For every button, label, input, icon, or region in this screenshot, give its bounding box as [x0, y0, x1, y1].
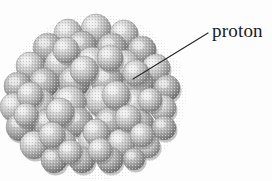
proton-label: proton: [212, 20, 263, 41]
leader-line: [133, 33, 208, 79]
figure-canvas: proton: [0, 0, 272, 181]
atomic-nucleus-illustration: proton: [0, 0, 272, 181]
